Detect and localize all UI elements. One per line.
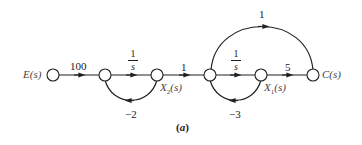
node-c	[307, 69, 319, 81]
node-summing-1	[99, 69, 111, 81]
gain-5: 5	[285, 62, 291, 73]
feedforward-arc	[211, 27, 313, 71]
label-x2-of-s: X2(s)	[160, 82, 182, 96]
caption-close-paren: )	[185, 121, 189, 133]
feedback-loop-minus2	[105, 80, 157, 101]
figure-caption: (a)	[176, 122, 189, 133]
gain-integrator-1: 1s	[128, 49, 138, 72]
int1-num: 1	[128, 49, 138, 61]
label-c-of-s: C(s)	[322, 69, 341, 80]
x1-var: X	[264, 81, 271, 93]
int2-den: s	[231, 61, 241, 72]
int2-num: 1	[231, 49, 241, 61]
node-x2	[151, 69, 163, 81]
gain-100: 100	[70, 61, 87, 72]
int1-den: s	[128, 61, 138, 72]
gain-1-mid: 1	[181, 62, 187, 73]
label-x1-of-s: X1(s)	[264, 82, 286, 96]
gain-minus-3: −3	[229, 109, 241, 120]
x1-arg: (s)	[274, 81, 286, 93]
gain-integrator-2: 1s	[231, 49, 241, 72]
x2-arg: (s)	[170, 81, 182, 93]
gain-feedforward-1: 1	[259, 9, 265, 20]
feedback-loop-minus3	[210, 80, 261, 101]
node-x1	[255, 69, 267, 81]
label-e-of-s: E(s)	[23, 69, 41, 80]
gain-minus-2: −2	[125, 109, 137, 120]
node-summing-2	[204, 69, 216, 81]
x2-var: X	[160, 81, 167, 93]
node-e	[47, 69, 59, 81]
